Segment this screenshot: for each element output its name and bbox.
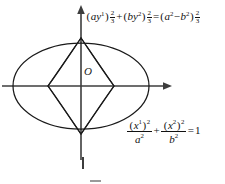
astroid-equals: =	[153, 10, 160, 22]
origin-label: O	[84, 66, 92, 77]
ellipse-fraction-2: (x2)2b2	[161, 118, 186, 146]
caption-crop-mark-secondary	[90, 180, 101, 182]
ellipse-frac2-denominator: b2	[161, 131, 186, 145]
astroid-term1-exponent: 23	[110, 10, 116, 26]
astroid-term2-exp-num: 2	[147, 10, 153, 17]
figure-canvas	[0, 0, 225, 184]
astroid-rhs-exponent: 23	[195, 10, 201, 26]
ellipse-den1-power: 2	[141, 132, 144, 139]
y-axis	[77, 5, 85, 160]
ellipse-equals: =	[187, 124, 194, 136]
ellipse-den2-power: 2	[175, 132, 178, 139]
astroid-rhs-exp-num: 2	[195, 10, 201, 17]
x-axis	[2, 82, 172, 90]
astroid-rhs-exp-den: 3	[195, 17, 201, 25]
ellipse-frac1-numerator: (x1)2	[127, 118, 152, 131]
ellipse-frac1-denominator: a2	[127, 131, 152, 145]
caption-crop-mark	[82, 157, 84, 169]
astroid-term1-exp-den: 3	[110, 17, 116, 25]
astroid-term2-exp-den: 3	[147, 17, 153, 25]
astroid-equation: (ay1)23+(by2)23=(a2−b2)23	[86, 10, 201, 26]
astroid-term1-exp-num: 2	[110, 10, 116, 17]
ellipse-fraction-1: (x1)2a2	[127, 118, 152, 146]
ellipse-plus: +	[153, 124, 160, 136]
ellipse-rhs: 1	[195, 124, 202, 136]
ellipse-frac2-numerator: (x2)2	[161, 118, 186, 131]
ellipse-num1-power: 2	[147, 118, 150, 125]
astroid-plus: +	[116, 10, 123, 22]
math-figure: O (ay1)23+(by2)23=(a2−b2)23 (x1)2a2+(x2)…	[0, 0, 225, 184]
astroid-term2-exponent: 23	[147, 10, 153, 26]
astroid-rhs-minus: −	[173, 10, 180, 22]
ellipse-equation: (x1)2a2+(x2)2b2=1	[126, 118, 201, 146]
ellipse-num2-power: 2	[181, 118, 184, 125]
